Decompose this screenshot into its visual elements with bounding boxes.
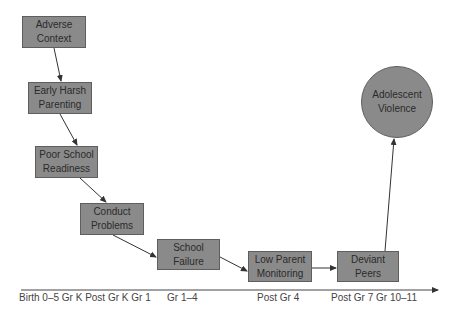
node-adolescent-violence: AdolescentViolence (361, 66, 433, 138)
arrow-failure-to-monitoring (220, 257, 247, 271)
arrow-readiness-to-conduct (80, 178, 106, 202)
node-label: Conduct (91, 205, 133, 219)
node-label: Adverse (36, 18, 73, 32)
node-label: Violence (372, 102, 421, 116)
node-label: Peers (351, 267, 385, 281)
node-label: Adolescent (372, 88, 421, 102)
node-early-harsh-parenting: Early HarshParenting (28, 82, 92, 114)
timeline-label-post-gr7: Post Gr 7 Gr 10–11 (331, 292, 417, 303)
node-low-parent-monitoring: Low ParentMonitoring (248, 251, 312, 282)
node-label: Early Harsh (34, 84, 86, 98)
timeline-label-early: Birth 0–5 Gr K Post Gr K Gr 1 (19, 292, 151, 303)
node-label: Monitoring (255, 267, 306, 281)
timeline-label-gr1-4: Gr 1–4 (167, 292, 198, 303)
node-conduct-problems: ConductProblems (80, 203, 144, 235)
node-deviant-peers: DeviantPeers (337, 251, 399, 282)
node-adverse-context: AdverseContext (22, 16, 86, 48)
node-label: Problems (91, 219, 133, 233)
node-label: Parenting (34, 98, 86, 112)
arrow-conduct-to-failure (113, 235, 156, 257)
node-label: Poor School (39, 148, 93, 162)
node-label: School (173, 241, 204, 255)
arrow-peers-to-violence (385, 139, 394, 251)
node-school-failure: SchoolFailure (157, 239, 220, 270)
node-label: Deviant (351, 253, 385, 267)
node-label: Readiness (39, 162, 93, 176)
node-poor-school-readiness: Poor SchoolReadiness (35, 146, 98, 178)
arrow-adverse-to-harsh (54, 48, 61, 81)
node-label: Context (36, 32, 73, 46)
arrow-harsh-to-readiness (60, 114, 77, 145)
node-label: Failure (173, 255, 204, 269)
node-label: Low Parent (255, 253, 306, 267)
timeline-label-post-gr4: Post Gr 4 (257, 292, 299, 303)
